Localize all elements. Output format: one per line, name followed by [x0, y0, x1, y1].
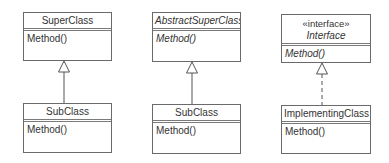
subclass-box[interactable]: SubClass Method()	[152, 104, 241, 154]
class-methods: Method()	[282, 46, 370, 62]
class-name: SuperClass	[24, 13, 111, 31]
realization-arrow	[317, 63, 328, 105]
subclass-box[interactable]: SubClass Method()	[23, 103, 112, 153]
superclass-box[interactable]: SuperClass Method()	[23, 12, 112, 61]
class-name: AbstractSuperClass	[153, 13, 240, 31]
class-methods: Method()	[24, 122, 111, 138]
class-name: Interface	[284, 30, 368, 42]
class-name: SubClass	[24, 104, 111, 122]
class-name: ImplementingClass	[282, 106, 370, 124]
interface-header: «interface» Interface	[282, 15, 370, 46]
method: Method()	[27, 33, 108, 45]
method: Method()	[285, 126, 367, 138]
abstract-superclass-box[interactable]: AbstractSuperClass Method()	[152, 12, 241, 62]
class-methods: Method()	[24, 31, 111, 47]
class-methods: Method()	[153, 31, 240, 47]
method: Method()	[156, 125, 237, 137]
abstract-method: Method()	[285, 48, 367, 60]
generalization-arrow-1	[59, 61, 70, 103]
stereotype-label: «interface»	[284, 18, 368, 30]
generalization-arrow-2	[187, 62, 198, 104]
class-methods: Method()	[153, 123, 240, 139]
class-name: SubClass	[153, 105, 240, 123]
implementing-class-box[interactable]: ImplementingClass Method()	[281, 105, 371, 154]
abstract-method: Method()	[156, 33, 237, 45]
class-methods: Method()	[282, 124, 370, 140]
method: Method()	[27, 124, 108, 136]
interface-box[interactable]: «interface» Interface Method()	[281, 14, 371, 63]
